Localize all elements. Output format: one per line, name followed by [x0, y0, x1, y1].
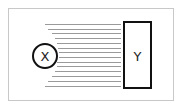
diagram-canvas: X Y	[0, 0, 179, 108]
target-label: Y	[133, 49, 142, 64]
target-node-y: Y	[124, 22, 151, 88]
source-node-x: X	[33, 44, 57, 68]
source-label: X	[41, 49, 50, 64]
